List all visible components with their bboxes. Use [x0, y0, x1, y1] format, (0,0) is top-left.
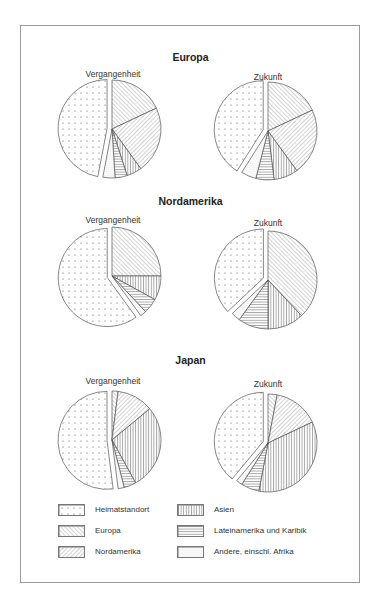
- label-europa-past: Vergangenheit: [53, 69, 173, 79]
- label-europa-future: Zukunft: [208, 72, 328, 82]
- legend-item-heimat: Heimatstandort: [58, 503, 149, 516]
- stipple-pattern-icon: [177, 546, 204, 558]
- label-japan-future: Zukunft: [208, 379, 328, 389]
- region-title-japan: Japan: [0, 354, 381, 366]
- back-hatch-pattern-icon: [58, 525, 85, 537]
- forward-hatch-pattern-icon: [58, 546, 85, 558]
- pie-charts: [0, 0, 381, 610]
- pie-europa-vergangenheit: [58, 80, 161, 178]
- slice-heimat: [58, 391, 113, 489]
- vertical-lines-pattern-icon: [177, 504, 204, 516]
- legend-item-andere: Andere, einschl. Afrika: [177, 545, 294, 558]
- legend-item-asien: Asien: [177, 503, 234, 516]
- legend-item-nordamerika: Nordamerika: [58, 545, 141, 558]
- pie-japan-zukunft: [214, 392, 317, 492]
- legend-item-europa: Europa: [58, 524, 121, 537]
- pie-nordamerika-zukunft: [214, 229, 317, 329]
- legend-label: Heimatstandort: [95, 505, 149, 514]
- legend-label: Andere, einschl. Afrika: [214, 547, 294, 556]
- label-nordamerika-future: Zukunft: [208, 218, 328, 228]
- label-japan-past: Vergangenheit: [53, 376, 173, 386]
- pie-europa-zukunft: [214, 81, 317, 180]
- legend-label: Lateinamerika und Karibik: [214, 526, 307, 535]
- legend-label: Europa: [95, 526, 121, 535]
- legend-item-lateinamerika: Lateinamerika und Karibik: [177, 524, 307, 537]
- region-title-nordamerika: Nordamerika: [0, 195, 381, 207]
- pie-japan-vergangenheit: [58, 391, 161, 489]
- slice-europa: [112, 227, 161, 276]
- dots-pattern-icon: [58, 504, 85, 516]
- legend-label: Asien: [214, 505, 234, 514]
- pie-nordamerika-vergangenheit: [58, 227, 161, 327]
- horizontal-lines-pattern-icon: [177, 525, 204, 537]
- region-title-europa: Europa: [0, 51, 381, 63]
- label-nordamerika-past: Vergangenheit: [53, 215, 173, 225]
- slice-heimat: [58, 80, 107, 177]
- legend-label: Nordamerika: [95, 547, 141, 556]
